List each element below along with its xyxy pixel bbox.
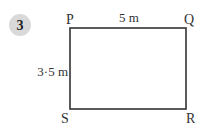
question-number: 3 (17, 18, 24, 33)
vertex-label-q: Q (184, 12, 194, 27)
vertex-label-p: P (66, 12, 74, 27)
dimension-label-left: 3·5 m (37, 64, 68, 79)
rectangle-pqrs (70, 28, 186, 109)
dimension-label-top: 5 m (119, 10, 139, 25)
question-badge: 3 (9, 14, 31, 36)
vertex-label-r: R (186, 111, 196, 126)
diagram-canvas: 3 P Q R S 5 m 3·5 m (0, 0, 206, 132)
vertex-label-s: S (61, 111, 69, 126)
